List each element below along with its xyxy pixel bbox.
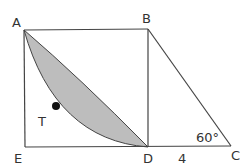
segment-AB [24,29,148,30]
label-D: D [143,151,153,166]
point-T-marker [52,102,60,110]
length-label-DC: 4 [178,151,186,166]
label-E: E [14,151,22,166]
geometry-diagram: A B E D C T 60° 4 [0,0,252,168]
label-A: A [12,15,21,30]
label-C: C [231,148,240,163]
label-B: B [142,11,151,26]
segment-EC [25,146,231,147]
angle-label-C: 60° [196,130,219,145]
segment-AE [24,30,25,147]
segment-BC [148,29,231,146]
shaded-region [24,30,148,147]
label-T: T [37,114,46,129]
